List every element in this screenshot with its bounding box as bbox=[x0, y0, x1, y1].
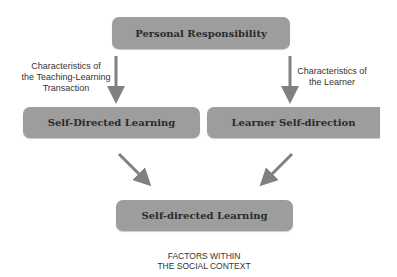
social-context-label: FACTORS WITHIN THE SOCIAL CONTEXT bbox=[140, 251, 268, 271]
personal-responsibility-box: Personal Responsibility bbox=[112, 17, 290, 49]
learner-self-direction-box: Learner Self-direction bbox=[207, 107, 380, 138]
personal-responsibility-text: Personal Responsibility bbox=[135, 28, 267, 39]
self-directed-learning-result-text: Self-directed Learning bbox=[142, 210, 268, 221]
learner-self-direction-text: Learner Self-direction bbox=[232, 117, 356, 128]
self-directed-learning-box: Self-Directed Learning bbox=[23, 107, 200, 138]
left-arrow-label: Characteristics of the Teaching-Learning… bbox=[14, 61, 118, 94]
arrow-right-diagonal bbox=[266, 154, 292, 180]
self-directed-learning-result-box: Self-directed Learning bbox=[116, 200, 293, 231]
arrow-left-diagonal bbox=[119, 154, 145, 180]
right-arrow-label: Characteristics of the Learner bbox=[292, 66, 372, 88]
self-directed-learning-text: Self-Directed Learning bbox=[48, 117, 176, 128]
